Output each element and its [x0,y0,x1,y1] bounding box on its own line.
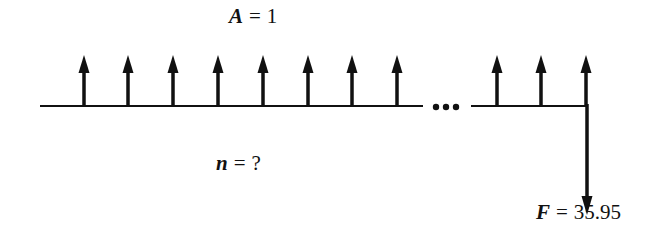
up-arrow-icon [213,55,224,106]
up-arrow-icon [492,55,503,106]
future-value-variable: F [536,200,550,224]
annuity-label: A=1 [229,4,277,28]
up-arrow-icon [123,55,134,106]
periods-variable: n [216,151,228,175]
periods-label: n=? [216,151,261,175]
future-value-label: F=35.95 [536,200,621,224]
future-value-amount: 35.95 [574,200,621,224]
annuity-equals: = [249,4,261,28]
up-arrow-icon [347,55,358,106]
periods-value: ? [252,151,261,175]
annuity-variable: A [229,4,243,28]
up-arrow-icon [258,55,269,106]
periods-equals: = [234,151,246,175]
up-arrow-icon [303,55,314,106]
cash-flow-diagram [0,0,656,233]
down-arrow-icon [582,104,593,215]
up-arrow-icon [168,55,179,106]
up-arrow-icon [536,55,547,106]
ellipsis-icon [433,104,459,110]
up-arrow-icon [581,55,592,106]
annuity-value: 1 [267,4,278,28]
annuity-arrows [79,55,592,106]
up-arrow-icon [392,55,403,106]
up-arrow-icon [79,55,90,106]
future-value-equals: = [556,200,568,224]
